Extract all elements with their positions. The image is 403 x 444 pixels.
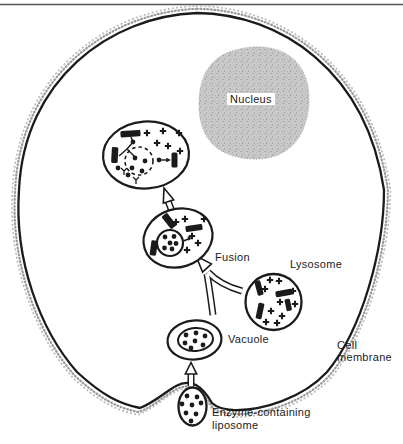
figure-cell-diagram: Nucleus Fusion Lysosome Vacuole Cellmemb… [0,0,403,444]
fusion-label: Fusion [215,251,250,263]
vacuole-label: Vacuole [228,333,269,345]
enzyme-liposome-label-line1: Enzyme-containing [212,406,311,419]
cell-membrane-label-line2: membrane [337,351,392,363]
lysosome-label: Lysosome [290,258,342,270]
cell-membrane-label: Cellmembrane [337,339,392,363]
enzyme-liposome-label-line2: liposome [212,419,311,432]
enzyme-liposome [179,388,207,426]
cell-membrane-label-line1: Cell [337,339,392,351]
nucleus-label: Nucleus [227,93,275,105]
diagram-canvas [0,0,403,444]
enzyme-liposome-label: Enzyme-containingliposome [212,406,311,432]
lysosome-vesicle [246,274,302,330]
